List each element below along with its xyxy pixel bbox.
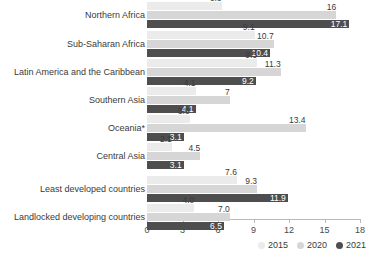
bar-2021: 9.2 xyxy=(147,77,360,85)
bar-fill xyxy=(147,152,200,160)
bar-group: 3.613.43.1 xyxy=(147,115,360,141)
bar-2015: 2.1 xyxy=(147,143,360,151)
bar-value-label: 11.3 xyxy=(265,59,281,69)
bar-value-label: 7.6 xyxy=(225,167,237,177)
bar-2020: 9.3 xyxy=(147,185,360,193)
bar-value-label: 2.1 xyxy=(160,134,172,144)
bar-group: 4.07.06.5 xyxy=(147,204,360,230)
bar-2021: 3.1 xyxy=(147,133,360,141)
bar-value-label: 17.1 xyxy=(331,20,350,28)
bar-2021: 6.5 xyxy=(147,222,360,230)
bar-fill xyxy=(147,96,230,104)
bar-2021: 3.1 xyxy=(147,161,360,169)
bar-value-label: 4.1 xyxy=(184,78,196,88)
bar-value-label: 6.3 xyxy=(210,0,222,3)
bar-value-label: 9.1 xyxy=(243,22,255,32)
bar-value-label: 9.3 xyxy=(245,176,257,186)
bar-2020: 16 xyxy=(147,11,360,19)
bar-fill xyxy=(147,31,255,39)
legend-item-2021[interactable]: 2021 xyxy=(336,240,366,250)
bar-fill xyxy=(147,2,222,10)
bar-fill xyxy=(147,143,172,151)
bar-group: 7.69.311.9 xyxy=(147,176,360,202)
bar-fill xyxy=(147,40,274,48)
bar-value-label: 11.9 xyxy=(270,194,288,202)
bar-fill xyxy=(147,194,288,202)
bar-value-label: 9.2 xyxy=(242,77,256,85)
legend-swatch-icon xyxy=(297,242,304,249)
bar-2020: 10.7 xyxy=(147,40,360,48)
bar-value-label: 7.0 xyxy=(218,204,230,214)
category-label: Northern Africa xyxy=(85,10,145,20)
legend-label: 2021 xyxy=(346,240,366,250)
category-label: Central Asia xyxy=(96,151,145,161)
category-label: Sub-Saharan Africa xyxy=(67,39,145,49)
bar-2015: 9.1 xyxy=(147,31,360,39)
bar-2020: 7 xyxy=(147,96,360,104)
legend-swatch-icon xyxy=(336,242,343,249)
bar-fill xyxy=(147,115,190,123)
bar-value-label: 3.1 xyxy=(170,161,184,169)
bar-2020: 7.0 xyxy=(147,213,360,221)
bar-fill xyxy=(147,204,194,212)
legend-item-2020[interactable]: 2020 xyxy=(297,240,327,250)
bar-fill xyxy=(147,11,336,19)
legend: 201520202021 xyxy=(0,240,366,250)
x-tick-mark xyxy=(360,219,361,223)
bar-2015: 4.0 xyxy=(147,204,360,212)
legend-item-2015[interactable]: 2015 xyxy=(258,240,288,250)
bar-value-label: 4.5 xyxy=(188,143,200,153)
legend-label: 2015 xyxy=(268,240,288,250)
legend-swatch-icon xyxy=(258,242,265,249)
category-label: Southern Asia xyxy=(89,95,145,105)
bar-fill xyxy=(147,213,230,221)
bar-fill xyxy=(147,124,306,132)
bar-value-label: 7 xyxy=(225,87,230,97)
legend-label: 2020 xyxy=(307,240,327,250)
bar-2021: 11.9 xyxy=(147,194,360,202)
bar-2020: 11.3 xyxy=(147,68,360,76)
category-label: Least developed countries xyxy=(40,184,145,194)
bar-2015: 3.6 xyxy=(147,115,360,123)
bar-value-label: 16 xyxy=(327,2,336,12)
bar-fill xyxy=(147,59,257,67)
category-label: Oceania* xyxy=(108,123,145,133)
bar-group: 9.311.39.2 xyxy=(147,59,360,85)
bar-value-label: 6.5 xyxy=(210,222,224,230)
bar-value-label: 10.7 xyxy=(257,31,274,41)
bar-value-label: 9.3 xyxy=(245,50,257,60)
bar-2015: 9.3 xyxy=(147,59,360,67)
bar-value-label: 4.0 xyxy=(183,195,195,205)
bar-fill xyxy=(147,185,257,193)
bar-2015: 4.1 xyxy=(147,87,360,95)
bar-value-label: 3.6 xyxy=(178,106,190,116)
bar-fill xyxy=(147,77,256,85)
category-label: Latin America and the Caribbean xyxy=(14,67,145,77)
bar-value-label: 13.4 xyxy=(289,115,306,125)
bar-fill xyxy=(147,87,196,95)
bar-2020: 4.5 xyxy=(147,152,360,160)
bar-chart: 0369121518 201520202021 Northern Africa6… xyxy=(0,0,372,257)
bar-2020: 13.4 xyxy=(147,124,360,132)
bar-fill xyxy=(147,68,281,76)
bar-group: 2.14.53.1 xyxy=(147,143,360,169)
category-label: Landlocked developing countries xyxy=(14,212,145,222)
bar-fill xyxy=(147,176,237,184)
